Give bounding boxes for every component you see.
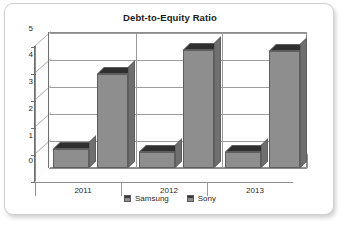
bar-samsung-2013[interactable] [225, 145, 261, 168]
y-tick-mark-5 [31, 47, 36, 48]
gridline-2 [50, 114, 306, 115]
legend-swatch-samsung-icon [124, 195, 131, 202]
legend-item-sony[interactable]: Sony [187, 194, 216, 203]
y-tick-label-2: 2 [11, 104, 33, 113]
category-divider-1 [136, 33, 137, 169]
legend-label-sony: Sony [198, 194, 216, 203]
bar-sony-2012[interactable] [183, 43, 214, 168]
bar-front-face [183, 50, 214, 168]
legend-label-samsung: Samsung [135, 194, 169, 203]
plot-area: 0 1 2 3 4 5 [35, 32, 307, 182]
chart-legend: Samsung Sony [5, 194, 334, 203]
bar-side-face [214, 36, 221, 168]
bar-side-face [300, 37, 307, 168]
y-tick-label-4: 4 [11, 50, 33, 59]
chart-card: Debt-to-Equity Ratio 0 1 2 3 4 5 [4, 3, 334, 215]
y-tick-mark-1 [31, 155, 36, 156]
chart-floor [35, 168, 307, 182]
gridline-4 [50, 60, 306, 61]
y-tick-mark-3 [31, 101, 36, 102]
y-tick-mark-4 [31, 74, 36, 75]
y-axis-front [34, 46, 35, 182]
legend-swatch-sony-icon [187, 195, 194, 202]
bar-sony-2011[interactable] [97, 67, 128, 168]
legend-item-samsung[interactable]: Samsung [124, 194, 169, 203]
bar-front-face [139, 152, 175, 168]
y-tick-label-5: 5 [11, 24, 33, 33]
bar-samsung-2011[interactable] [53, 142, 89, 168]
y-axis-back [48, 32, 49, 168]
bar-front-face [53, 149, 89, 168]
bar-front-face [97, 74, 128, 168]
gridline-3 [50, 87, 306, 88]
category-divider-2 [222, 33, 223, 169]
chart-title: Debt-to-Equity Ratio [5, 12, 334, 23]
bar-front-face [269, 51, 300, 168]
bar-sony-2013[interactable] [269, 44, 300, 168]
floor-edge-front [35, 182, 293, 183]
y-tick-label-3: 3 [11, 77, 33, 86]
gridline-5 [50, 33, 306, 34]
y-tick-label-0: 0 [11, 156, 33, 165]
y-tick-mark-2 [31, 128, 36, 129]
floor-edge-back [49, 168, 307, 169]
bar-front-face [225, 152, 261, 168]
bar-samsung-2012[interactable] [139, 145, 175, 168]
bar-side-face [128, 60, 135, 168]
y-tick-label-1: 1 [11, 131, 33, 140]
